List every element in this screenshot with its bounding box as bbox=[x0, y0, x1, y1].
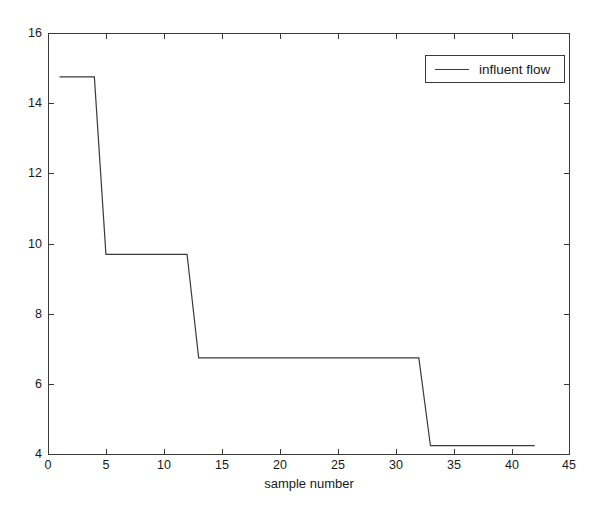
chart-figure: 4 6 8 10 12 14 16 0 5 10 15 20 25 30 35 … bbox=[0, 0, 603, 512]
x-axis-title: sample number bbox=[209, 476, 409, 491]
legend-line-swatch bbox=[435, 69, 469, 70]
series-influent-flow bbox=[60, 77, 535, 446]
legend[interactable]: influent flow bbox=[425, 55, 565, 83]
legend-label-influent-flow: influent flow bbox=[479, 62, 560, 77]
